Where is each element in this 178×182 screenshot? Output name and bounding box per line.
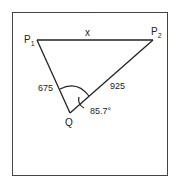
label-675: 675 [38, 83, 53, 93]
label-p2: P2 [151, 26, 162, 39]
label-x: x [85, 27, 90, 38]
edge-q-p2 [70, 40, 153, 113]
edge-p1-q [37, 40, 70, 113]
label-angle: 85.7° [90, 106, 112, 116]
angle-arc [60, 86, 89, 96]
label-q: Q [65, 117, 73, 128]
triangle-diagram: P1 P2 Q x 675 925 85.7° [0, 0, 178, 182]
label-925: 925 [110, 81, 125, 91]
frame-border [13, 13, 168, 176]
label-p1: P1 [24, 34, 35, 47]
